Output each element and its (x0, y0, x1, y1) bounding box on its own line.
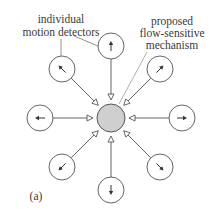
detectors-label-line2: motion detectors (10, 26, 112, 38)
mechanism-label-line3: mechanism (130, 39, 214, 51)
spoke-line-down-right (128, 135, 151, 158)
input-triangle-left (87, 115, 93, 121)
mechanism-label-line2: flow-sensitive (125, 27, 218, 39)
spoke-line-down-left (71, 135, 94, 158)
motion-detector-left (27, 105, 53, 131)
motion-detector-right (169, 105, 195, 131)
input-triangle-up (108, 94, 114, 100)
motion-detector-up-left (49, 56, 75, 82)
spoke-line-up-left (71, 78, 94, 101)
motion-detector-diagram: individual motion detectors proposed flo… (0, 0, 218, 222)
flow-sensitive-mechanism-node (97, 104, 125, 132)
input-triangle-down (108, 136, 114, 142)
detectors-label-line1: individual (20, 13, 102, 25)
panel-label: (a) (25, 190, 47, 202)
motion-detector-down-right (147, 154, 173, 180)
motion-detector-up-right (147, 56, 173, 82)
motion-detector-down (98, 177, 124, 203)
input-triangle-right (129, 115, 135, 121)
mechanism-label-line1: proposed (130, 15, 214, 27)
motion-detector-down-left (49, 154, 75, 180)
